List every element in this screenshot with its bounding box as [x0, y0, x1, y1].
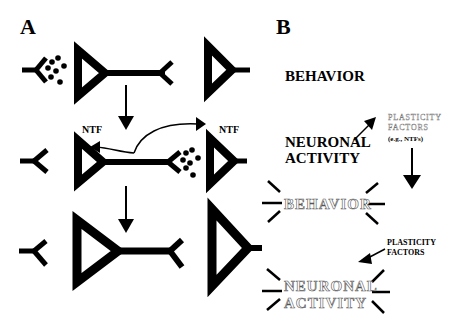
curved-ntf-arrows [90, 117, 206, 153]
b-top-factors: FACTORS [388, 123, 429, 133]
b-top-neuronal: NEURONAL [285, 134, 371, 151]
b-bottom-neuronal: NEURONAL [284, 278, 378, 295]
b-top-plasticity: PLASTICITY [388, 113, 442, 123]
arrow-down-1 [118, 85, 134, 130]
panel-b-label: B [276, 14, 291, 40]
panel-a-label: A [20, 14, 36, 40]
b-bottom-plasticity: PLASTICITY [387, 238, 436, 248]
ntf-label-left: NTF [82, 124, 102, 135]
b-arrow-down [403, 148, 421, 189]
b-bottom-factors: FACTORS [387, 248, 425, 258]
b-top-activity: ACTIVITY [285, 150, 360, 167]
row2-ntf-dots [180, 147, 201, 178]
row1-presynaptic-terminal [22, 58, 46, 82]
row3-enlarged-neuron [77, 220, 182, 282]
row2-target-neuron [210, 138, 247, 184]
row1-ntf-dots [45, 55, 67, 85]
b-top-eg-ntfs: (e.g., NTFs) [388, 134, 423, 144]
row2-left-terminal [20, 150, 47, 172]
row3-enlarged-target-neuron [212, 209, 262, 286]
diagram-canvas [0, 0, 456, 331]
row1-target-neuron [208, 46, 250, 93]
b-bottom-arrow-from-plasticity [358, 249, 385, 264]
b-top-behavior: BEHAVIOR [285, 68, 365, 85]
row3-left-terminal [19, 241, 46, 265]
b-bottom-activity: ACTIVITY [284, 295, 367, 312]
arrow-down-2 [118, 186, 134, 233]
ntf-label-right: NTF [219, 124, 239, 135]
b-bottom-behavior: BEHAVIOR [284, 196, 372, 213]
